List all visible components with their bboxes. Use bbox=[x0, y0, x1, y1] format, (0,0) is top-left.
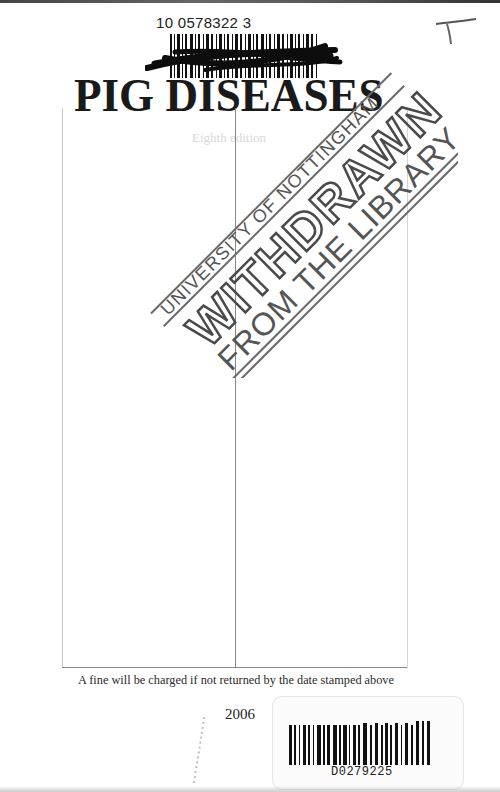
date-grid-bottom-rule bbox=[62, 667, 407, 668]
accession-number: 10 0578322 3 bbox=[156, 14, 251, 31]
scan-bottom-edge bbox=[0, 786, 500, 792]
scan-top-edge bbox=[0, 0, 500, 3]
barcode-graphic bbox=[289, 721, 435, 765]
fine-notice: A fine will be charged if not returned b… bbox=[78, 673, 394, 688]
barcode-number: D0279225 bbox=[331, 765, 393, 779]
publication-year: 2006 bbox=[225, 706, 255, 723]
date-grid-left-border bbox=[62, 108, 63, 668]
scan-smudge bbox=[192, 715, 206, 785]
barcode-label: D0279225 bbox=[272, 696, 464, 790]
withdrawn-library-stamp: UNIVERSITY OF NOTTINGHAM WITHDRAWN FROM … bbox=[148, 58, 458, 378]
stamp-line-withdrawn: WITHDRAWN bbox=[176, 81, 452, 357]
handwritten-t-mark bbox=[430, 18, 480, 48]
